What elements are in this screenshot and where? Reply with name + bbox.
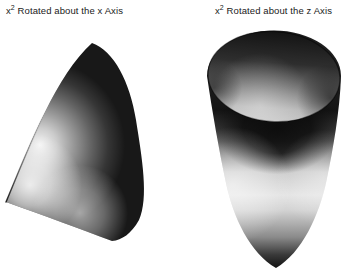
figure-canvas: x2 Rotated about the x Axis x2 Rotated a…: [0, 0, 344, 275]
surface-plot-x-rotation: [6, 43, 144, 241]
surface-plot-z-rotation: [205, 27, 343, 268]
surface-plots-svg: [0, 0, 344, 275]
horn-highlight-bottom: [6, 43, 144, 241]
